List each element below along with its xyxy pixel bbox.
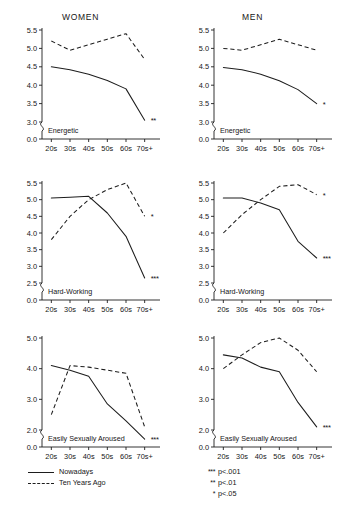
svg-text:Energetic: Energetic [48,126,79,135]
svg-text:***: *** [323,423,331,432]
legend-item-nowadays: Nowadays [28,466,106,477]
svg-text:40s: 40s [83,452,95,461]
svg-text:20s: 20s [217,305,229,314]
svg-text:Easily Sexually Aroused: Easily Sexually Aroused [220,434,297,443]
svg-text:4.0: 4.0 [27,229,37,238]
significance-stars: *** [193,466,215,477]
svg-text:2.5: 2.5 [27,279,37,288]
svg-text:40s: 40s [83,305,95,314]
panel-svg: 5.55.04.54.03.53.02.50.020s30s40s50s60s7… [172,175,344,315]
panel-svg: 5.04.03.02.00.020s30s40s50s60s70s+Easily… [172,330,344,460]
significance-label: p<.05 [218,488,236,499]
panel-women-aroused: 5.04.03.02.00.020s30s40s50s60s70s+Easily… [0,330,172,460]
svg-text:5.0: 5.0 [199,334,209,343]
svg-text:50s: 50s [101,305,113,314]
svg-text:***: *** [151,274,159,283]
svg-text:20s: 20s [217,144,229,153]
svg-text:**: ** [151,116,157,125]
svg-text:*: * [323,100,326,109]
svg-text:4.0: 4.0 [27,81,37,90]
svg-text:0.0: 0.0 [27,443,37,452]
significance-label: p<.01 [218,477,236,488]
svg-text:30s: 30s [236,452,248,461]
svg-text:4.5: 4.5 [27,62,37,71]
svg-text:60s: 60s [292,452,304,461]
panel-men-energetic: 5.55.04.54.03.53.00.020s30s40s50s60s70s+… [172,22,344,157]
svg-text:70s+: 70s+ [137,305,153,314]
svg-text:20s: 20s [45,305,57,314]
svg-text:50s: 50s [273,144,285,153]
legend: Nowadays Ten Years Ago [28,466,106,488]
svg-text:0.0: 0.0 [199,296,209,305]
svg-text:40s: 40s [83,144,95,153]
significance-legend: *** p<.001 ** p<.01 * p<.05 [193,466,241,499]
svg-text:3.5: 3.5 [27,99,37,108]
legend-item-ten-years-ago: Ten Years Ago [28,477,106,488]
svg-text:3.0: 3.0 [199,118,209,127]
panel-women-hardworking: 5.55.04.54.03.53.02.50.020s30s40s50s60s7… [0,175,172,315]
legend-line-dashed-icon [28,479,54,487]
panel-men-aroused: 5.04.03.02.00.020s30s40s50s60s70s+Easily… [172,330,344,460]
significance-stars: ** [193,477,215,488]
svg-text:70s+: 70s+ [309,305,325,314]
svg-text:0.0: 0.0 [27,135,37,144]
svg-text:3.5: 3.5 [27,245,37,254]
svg-text:***: *** [323,254,331,263]
svg-text:3.0: 3.0 [27,118,37,127]
svg-text:Hard-Working: Hard-Working [220,287,264,296]
svg-text:30s: 30s [236,144,248,153]
svg-text:20s: 20s [45,144,57,153]
column-title-women: WOMEN [62,12,99,22]
svg-text:***: *** [151,435,159,444]
panel-men-hardworking: 5.55.04.54.03.53.02.50.020s30s40s50s60s7… [172,175,344,315]
svg-text:0.0: 0.0 [27,296,37,305]
svg-text:60s: 60s [120,305,132,314]
svg-text:3.0: 3.0 [27,395,37,404]
svg-text:50s: 50s [273,452,285,461]
svg-text:4.0: 4.0 [199,229,209,238]
svg-text:4.5: 4.5 [199,62,209,71]
svg-text:60s: 60s [120,144,132,153]
svg-text:50s: 50s [101,452,113,461]
svg-text:60s: 60s [292,305,304,314]
svg-text:5.0: 5.0 [199,195,209,204]
svg-text:30s: 30s [64,144,76,153]
svg-text:20s: 20s [45,452,57,461]
svg-text:2.5: 2.5 [199,279,209,288]
svg-text:3.5: 3.5 [199,99,209,108]
svg-text:4.5: 4.5 [199,212,209,221]
svg-text:0.0: 0.0 [199,135,209,144]
column-title-men: MEN [242,12,263,22]
svg-text:60s: 60s [292,144,304,153]
significance-note: * p<.05 [193,488,241,499]
svg-text:50s: 50s [273,305,285,314]
legend-label-nowadays: Nowadays [59,466,93,477]
svg-text:0.0: 0.0 [199,443,209,452]
svg-text:5.5: 5.5 [27,26,37,35]
svg-text:5.0: 5.0 [199,44,209,53]
svg-text:4.0: 4.0 [199,364,209,373]
significance-note: *** p<.001 [193,466,241,477]
svg-text:30s: 30s [64,452,76,461]
svg-text:50s: 50s [101,144,113,153]
svg-text:70s+: 70s+ [137,144,153,153]
svg-text:3.0: 3.0 [27,262,37,271]
svg-text:2.0: 2.0 [27,426,37,435]
svg-text:70s+: 70s+ [309,144,325,153]
svg-text:*: * [323,191,326,200]
svg-text:Hard-Working: Hard-Working [48,287,92,296]
svg-text:*: * [151,212,154,221]
svg-text:40s: 40s [255,144,267,153]
legend-line-solid-icon [28,468,54,476]
svg-text:Energetic: Energetic [220,126,251,135]
svg-text:5.0: 5.0 [27,44,37,53]
svg-text:3.0: 3.0 [199,262,209,271]
significance-stars: * [193,488,215,499]
svg-text:5.0: 5.0 [27,195,37,204]
significance-label: p<.001 [218,466,241,477]
svg-text:5.5: 5.5 [199,26,209,35]
svg-text:60s: 60s [120,452,132,461]
svg-text:40s: 40s [255,452,267,461]
svg-text:30s: 30s [236,305,248,314]
svg-text:70s+: 70s+ [137,452,153,461]
